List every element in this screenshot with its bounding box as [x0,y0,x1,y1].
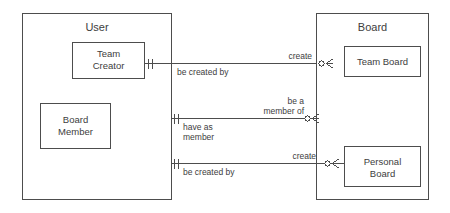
cardinality-zero-circle-1 [319,61,324,66]
cardinality-zero-circle-3 [325,161,330,166]
cardinality-zero-circle-2 [305,116,310,121]
entity-board-member-box[interactable] [41,104,111,149]
entity-personal-board-box[interactable] [345,147,421,187]
diagram-canvas [0,0,450,213]
er-diagram: User Board Team Creator Board Member Tea… [0,0,450,213]
entity-team-board-box[interactable] [345,47,421,77]
entity-team-creator-box[interactable] [73,43,145,79]
